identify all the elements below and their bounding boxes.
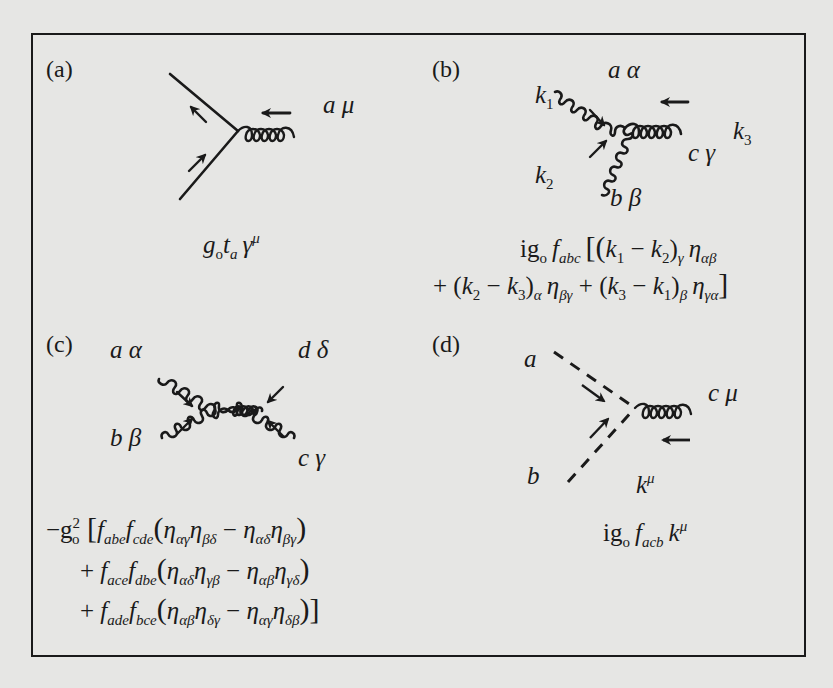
label-b-beta: b β bbox=[110, 425, 141, 450]
fermion-line-in bbox=[180, 131, 238, 199]
diagram-c bbox=[159, 379, 295, 438]
vertex-rule-b-line2: + (k2 − k3)α ηβγ + (k3 − k1)β ηγα] bbox=[433, 269, 728, 299]
diagram-a bbox=[170, 74, 294, 199]
gluon-line-a bbox=[159, 379, 228, 418]
label-c-gamma: c γ bbox=[688, 140, 715, 165]
panel-label-b: (b) bbox=[432, 57, 460, 81]
vertex-rule-c-line2: + facefdbe(ηαδηγβ − ηαβηγδ) bbox=[80, 554, 310, 584]
gluon-line-a bbox=[555, 91, 625, 135]
label-momentum-k: kμ bbox=[636, 472, 655, 497]
panel-label-d: (d) bbox=[432, 332, 460, 356]
label-b-beta: b β bbox=[610, 185, 641, 210]
diagram-d bbox=[554, 352, 691, 482]
label-gluon-a-mu: a μ bbox=[323, 92, 354, 117]
arrow-in bbox=[189, 155, 205, 171]
ghost-line-a bbox=[554, 352, 635, 408]
arrow-a bbox=[582, 385, 604, 401]
label-c-mu: c μ bbox=[708, 380, 738, 405]
ghost-line-b bbox=[568, 408, 635, 482]
arrow-k2 bbox=[590, 141, 606, 157]
fermion-line-out bbox=[170, 74, 238, 131]
label-a-alpha: a α bbox=[110, 337, 142, 362]
label-d-delta: d δ bbox=[298, 337, 328, 362]
vertex-rule-d: igo facb kμ bbox=[603, 520, 687, 545]
gluon-line bbox=[635, 404, 691, 418]
label-ghost-b: b bbox=[527, 463, 540, 488]
label-k1: k1 bbox=[535, 82, 554, 107]
label-c-gamma: c γ bbox=[298, 445, 325, 470]
vertex-rule-c-line3: + fadefbce(ηαβηδγ − ηαγηδβ)] bbox=[80, 594, 319, 624]
gluon-line bbox=[238, 127, 294, 141]
arrow-d bbox=[268, 387, 283, 402]
label-ghost-a: a bbox=[524, 346, 537, 371]
diagram-b bbox=[555, 91, 688, 195]
vertex-rule-a: gota γμ bbox=[203, 232, 260, 257]
vertex-rule-c-line1: −g2o [fabefcde(ηαγηβδ − ηαδηβγ) bbox=[46, 513, 306, 543]
label-a-alpha: a α bbox=[608, 57, 640, 82]
gluon-line-c bbox=[625, 124, 681, 138]
label-k2: k2 bbox=[535, 162, 554, 187]
arrow-out bbox=[191, 107, 206, 122]
arrow-b bbox=[590, 419, 608, 438]
panel-label-a: (a) bbox=[46, 57, 73, 81]
panel-label-c: (c) bbox=[46, 332, 73, 356]
label-k3: k3 bbox=[733, 118, 752, 143]
vertex-rule-b-line1: igo fabc [(k1 − k2)γ ηαβ bbox=[520, 232, 716, 262]
gluon-line-b bbox=[162, 403, 228, 438]
